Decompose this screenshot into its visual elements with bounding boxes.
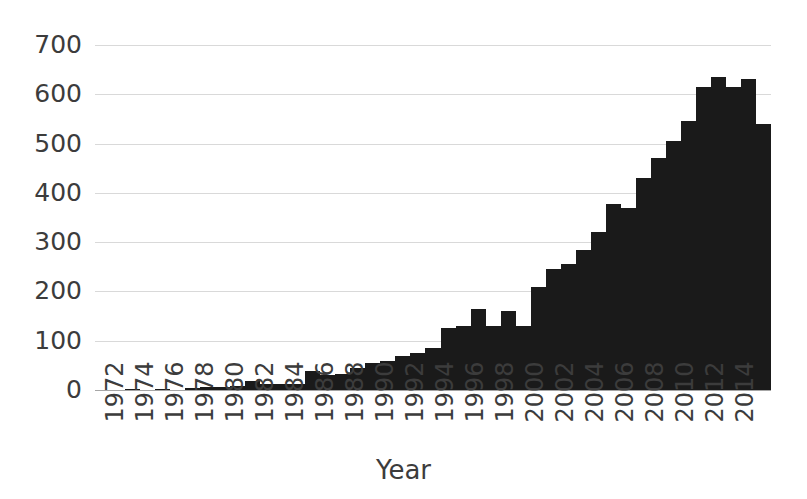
x-axis-tick-label: 2010 xyxy=(661,392,685,458)
y-axis-tick-label: 100 xyxy=(12,328,82,353)
x-axis-tick-label: 1978 xyxy=(181,392,205,458)
bar xyxy=(756,124,771,390)
x-axis-tick-label: 1982 xyxy=(241,392,265,458)
bar-chart: 7006005004003002001000 19721974197619781… xyxy=(0,0,807,499)
x-axis-tick-label: 1976 xyxy=(151,392,175,458)
x-axis-tick-label: 1974 xyxy=(121,392,145,458)
x-axis-tick-label: 2004 xyxy=(571,392,595,458)
x-axis-tick-label: 2014 xyxy=(721,392,745,458)
bar xyxy=(651,158,666,390)
x-axis-tick-label: 2006 xyxy=(601,392,625,458)
x-axis-labels: 1972197419761978198019821984198619881990… xyxy=(0,392,807,462)
x-axis-tick-label: 2000 xyxy=(511,392,535,458)
x-axis-tick-label: 1992 xyxy=(391,392,415,458)
x-axis-tick-label: 1990 xyxy=(361,392,385,458)
x-axis-tick-label: 1998 xyxy=(481,392,505,458)
y-axis-tick-label: 300 xyxy=(12,229,82,254)
plot-area xyxy=(95,45,771,390)
x-axis-tick-label: 1988 xyxy=(331,392,355,458)
x-axis-tick-label: 1986 xyxy=(301,392,325,458)
bar xyxy=(636,178,651,390)
bar xyxy=(696,87,711,390)
x-axis-tick-label: 1994 xyxy=(421,392,445,458)
y-axis-labels: 7006005004003002001000 xyxy=(0,45,82,390)
gridline xyxy=(95,45,771,46)
x-axis-tick-label: 2008 xyxy=(631,392,655,458)
y-axis-tick-label: 200 xyxy=(12,278,82,303)
y-axis-tick-label: 400 xyxy=(12,180,82,205)
x-axis-tick-label: 1996 xyxy=(451,392,475,458)
bar xyxy=(726,87,741,390)
gridline xyxy=(95,94,771,95)
x-axis-title: Year xyxy=(0,455,807,485)
x-axis-tick-label: 1980 xyxy=(211,392,235,458)
bar xyxy=(741,79,756,390)
x-axis-tick-label: 1972 xyxy=(91,392,115,458)
y-axis-tick-label: 600 xyxy=(12,81,82,106)
x-axis-tick-label: 2012 xyxy=(691,392,715,458)
bar xyxy=(666,141,681,390)
bar xyxy=(681,121,696,390)
bar xyxy=(711,77,726,390)
y-axis-tick-label: 700 xyxy=(12,32,82,57)
x-axis-tick-label: 2002 xyxy=(541,392,565,458)
y-axis-tick-label: 500 xyxy=(12,131,82,156)
x-axis-tick-label: 1984 xyxy=(271,392,295,458)
